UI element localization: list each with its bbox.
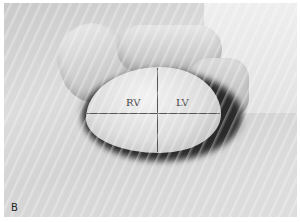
rv-label: RV	[126, 97, 140, 108]
horizontal-axis-line	[87, 113, 220, 114]
lv-label: LV	[176, 97, 189, 108]
vertical-axis-line	[157, 68, 158, 152]
figure-frame: RV LV B	[0, 0, 300, 222]
photograph: RV LV	[4, 3, 297, 217]
panel-label: B	[11, 202, 18, 213]
